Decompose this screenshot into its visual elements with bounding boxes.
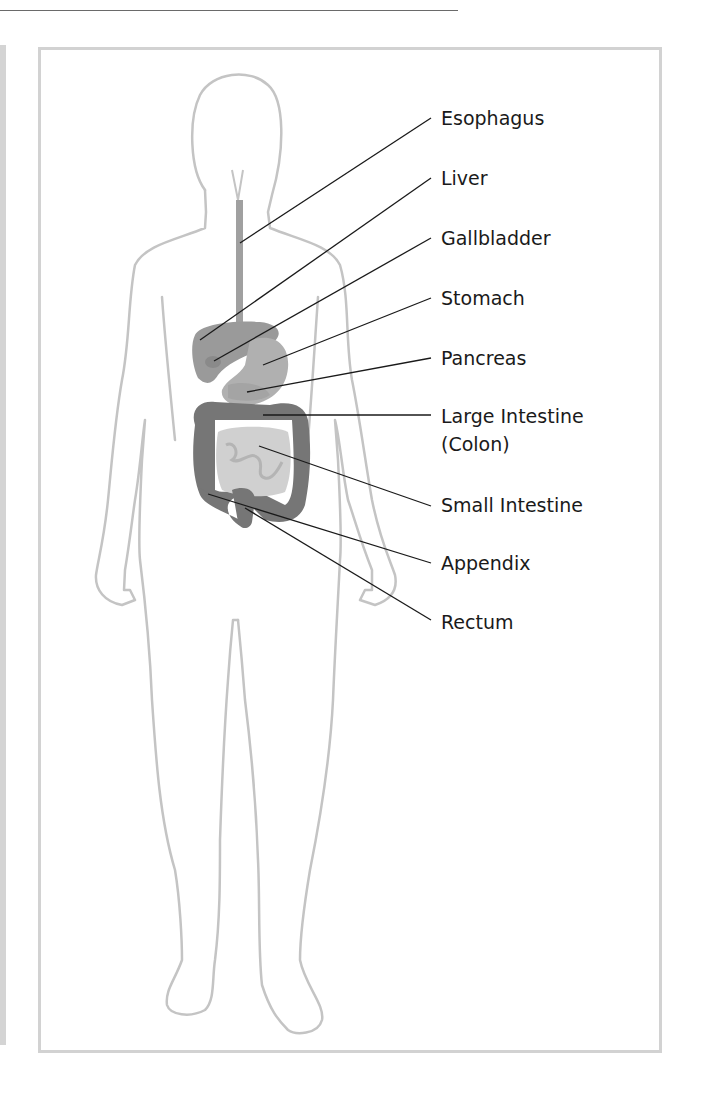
esophagus-shape: [232, 170, 243, 340]
label-liver: Liver: [441, 166, 488, 190]
body-outline: [96, 75, 396, 1033]
leader-line-esophagus: [240, 118, 431, 243]
small-intestine-shape: [216, 427, 291, 497]
label-gallbladder: Gallbladder: [441, 226, 551, 250]
label-esophagus: Esophagus: [441, 106, 544, 130]
label-pancreas: Pancreas: [441, 346, 526, 370]
leader-line-gallbladder: [214, 238, 431, 361]
label-rectum: Rectum: [441, 610, 513, 634]
label-stomach: Stomach: [441, 286, 525, 310]
label-large-intestine-subtext: (Colon): [441, 432, 510, 456]
label-small-intestine: Small Intestine: [441, 493, 583, 517]
label-large-intestine: Large Intestine: [441, 404, 584, 428]
label-appendix: Appendix: [441, 551, 530, 575]
digestive-system-illustration: [0, 0, 707, 1100]
leader-lines: [200, 118, 431, 620]
